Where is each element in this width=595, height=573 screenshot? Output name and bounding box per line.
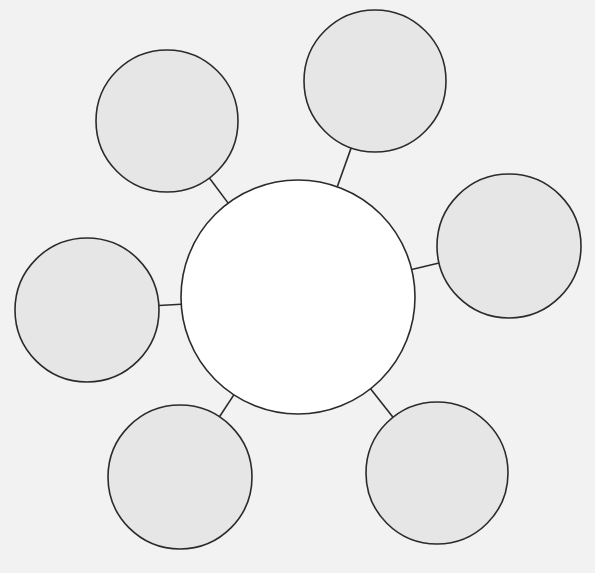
satellite-bubble-left — [15, 238, 159, 382]
center-bubble-group — [181, 180, 415, 414]
center-bubble — [181, 180, 415, 414]
connector-line-top-left — [209, 178, 228, 203]
bubble-map-diagram — [0, 0, 595, 573]
satellite-bubble-right — [437, 174, 581, 318]
connector-line-bottom-right — [371, 389, 393, 417]
connector-line-bottom-left — [219, 395, 233, 417]
connector-line-top-right — [337, 148, 351, 187]
connector-line-left — [159, 304, 181, 305]
connector-line-right — [412, 263, 439, 270]
satellite-bubble-bottom-right — [366, 402, 508, 544]
satellite-bubble-top-right — [304, 10, 446, 152]
satellite-bubble-bottom-left — [108, 405, 252, 549]
satellite-bubble-top-left — [96, 50, 238, 192]
